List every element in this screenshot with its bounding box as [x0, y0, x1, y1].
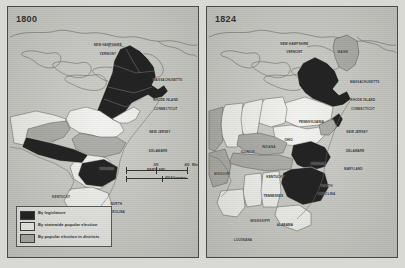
- state-label: NEW HAMPSHIRE: [94, 44, 122, 48]
- state-label: CAROLINA: [318, 193, 335, 197]
- map-panel-1800: 1800: [7, 6, 199, 258]
- scale-tick: [126, 167, 127, 174]
- scale-tick: [156, 167, 157, 174]
- scale-tick-label: 200: [153, 163, 158, 167]
- state-label: DELAWARE: [149, 150, 168, 154]
- state-label: NORTH: [110, 203, 122, 207]
- state-label: KENTUCKY: [266, 176, 284, 180]
- state-label: NEW JERSEY: [149, 131, 171, 135]
- map-panel-1824: 1824: [206, 6, 398, 258]
- state-label: INDIANA: [262, 146, 276, 150]
- state-label: MAINE: [338, 51, 349, 55]
- map-legend: By legislature By statewide popular elec…: [16, 206, 112, 247]
- legend-swatch-statewide-popular: [20, 222, 35, 231]
- state-label: NORTH: [321, 185, 333, 189]
- state-label: OHIO: [284, 139, 292, 143]
- legend-swatch-districts: [20, 234, 35, 243]
- scale-bar: 200 400 Miles 400 Kilometers: [126, 166, 192, 183]
- year-label-1824: 1824: [215, 14, 236, 24]
- state-label: ILLINOIS: [241, 151, 255, 155]
- state-label: MASSACHUSETTS: [153, 79, 182, 83]
- state-label: TENNESSEE: [264, 195, 284, 199]
- scale-tick-label: 400: [184, 163, 189, 167]
- scale-tick: [187, 167, 188, 174]
- legend-label: By legislature: [38, 210, 66, 215]
- state-label: VERMONT: [286, 51, 302, 55]
- state-label: CONNECTICUT: [154, 108, 178, 112]
- state-label: MARYLAND: [344, 168, 363, 172]
- state-label: MISSISSIPPI: [250, 220, 270, 224]
- scale-unit-miles: Miles: [192, 163, 199, 167]
- state-label: ALABAMA: [277, 224, 293, 228]
- legend-item: By popular election in districts: [20, 234, 107, 243]
- legend-label: By statewide popular election: [38, 222, 97, 227]
- scale-tick: [162, 176, 163, 182]
- scale-unit-km: 400 Kilometers: [165, 176, 186, 180]
- legend-item: By statewide popular election: [20, 222, 107, 231]
- state-label: RHODE ISLAND: [153, 99, 178, 103]
- state-label: KENTUCKY: [52, 196, 70, 200]
- state-label: CONNECTICUT: [351, 108, 375, 112]
- state-label: LOUISIANA: [234, 239, 252, 243]
- state-label: NEW HAMPSHIRE: [280, 43, 308, 47]
- state-label: RHODE ISLAND: [350, 99, 375, 103]
- state-label: PENNSYLVANIA: [299, 121, 324, 125]
- state-label: VIRGINIA: [311, 163, 326, 167]
- figure-sheet: 1800: [0, 0, 405, 268]
- state-label: MISSOURI: [214, 173, 230, 177]
- legend-item: By legislature: [20, 210, 107, 219]
- state-label: VIRGINIA: [99, 168, 114, 172]
- scale-tick: [126, 176, 127, 182]
- legend-swatch-by-legislature: [20, 211, 35, 220]
- state-label: MASSACHUSETTS: [350, 81, 379, 85]
- state-label: DELAWARE: [346, 150, 365, 154]
- year-label-1800: 1800: [16, 14, 37, 24]
- legend-label: By popular election in districts: [38, 234, 99, 239]
- state-label: VERMONT: [100, 53, 116, 57]
- state-label: NEW JERSEY: [346, 131, 368, 135]
